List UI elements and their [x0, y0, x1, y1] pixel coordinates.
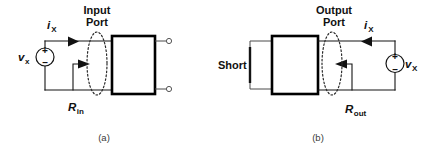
port-label-line1-a: Input [84, 4, 111, 16]
resistance-arrow-icon-a [78, 60, 90, 69]
resistance-label-b: Rout [345, 103, 367, 118]
terminal-node-icon-top-a [166, 38, 171, 43]
voltage-subscript-b: X [412, 64, 418, 73]
source-plus-sign-a: + [42, 45, 48, 56]
resistance-pointer-a [73, 64, 81, 90]
caption-a: (a) [98, 132, 110, 143]
figure-container: + – vx iX Rin Input Port (a) [0, 0, 424, 151]
panel-b-diagram: Short + – vX iX Rout Output [212, 0, 424, 151]
current-subscript-b: X [368, 25, 374, 34]
terminal-node-icon-bottom-a [166, 86, 171, 91]
current-label-a: iX [47, 19, 57, 34]
current-subscript-a: X [51, 25, 57, 34]
panel-a-diagram: + – vx iX Rin Input Port (a) [0, 0, 212, 151]
voltage-label-a: vx [18, 51, 30, 66]
resistance-arrow-icon-b [335, 60, 347, 69]
short-label-b: Short [218, 59, 247, 71]
current-label-b: iX [364, 19, 374, 34]
voltage-subscript-a: x [25, 57, 30, 66]
resistance-label-a: Rin [68, 101, 84, 116]
resistance-subscript-b: out [354, 109, 367, 118]
source-minus-sign-a: – [42, 57, 48, 68]
resistance-symbol-b: R [345, 103, 354, 115]
caption-b: (b) [312, 132, 324, 143]
source-plus-sign-b: + [392, 51, 398, 62]
port-label-line1-b: Output [316, 4, 352, 16]
port-label-line2-a: Port [86, 16, 108, 28]
network-box-b [272, 36, 318, 94]
source-minus-sign-b: – [392, 64, 398, 75]
port-label-line2-b: Port [323, 16, 345, 28]
resistance-symbol-a: R [68, 101, 77, 113]
voltage-label-b: vX [405, 58, 418, 73]
network-box-a [112, 36, 155, 94]
resistance-subscript-a: in [77, 107, 84, 116]
